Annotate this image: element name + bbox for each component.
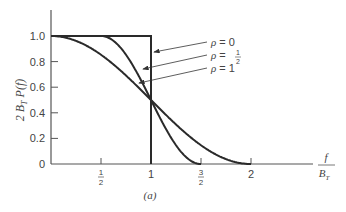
caption: (a) — [144, 189, 157, 202]
annotation-label: ρ = 0 — [210, 36, 235, 48]
y-tick-label: 0.6 — [30, 81, 45, 93]
annotation-arrow — [154, 42, 207, 52]
y-axis-label: 2 BT P(f) — [13, 79, 29, 121]
x-tick-label-num: 3 — [199, 168, 204, 177]
svg-text:f: f — [324, 151, 329, 163]
annotation-label: ρ = 1 — [210, 62, 235, 74]
y-tick-label: 0.4 — [30, 107, 45, 119]
x-tick-label: 2 — [248, 168, 254, 180]
svg-text:2 BT P(f): 2 BT P(f) — [13, 79, 29, 121]
y-tick-label: 0 — [39, 158, 45, 170]
svg-text:2: 2 — [236, 58, 240, 65]
x-tick-label: 1 — [148, 168, 154, 180]
annotation-arrow — [139, 68, 207, 83]
annotation-arrow — [143, 55, 207, 69]
svg-text:BT: BT — [319, 167, 331, 182]
x-axis-label: f BT — [318, 151, 335, 182]
annotations: ρ = 0ρ =12ρ = 1 — [139, 36, 241, 83]
axes — [51, 10, 313, 164]
svg-text:1: 1 — [236, 49, 240, 56]
x-tick-label-num: 1 — [99, 168, 104, 177]
x-tick-label-den: 2 — [99, 178, 104, 187]
x-tick-label-den: 2 — [199, 178, 204, 187]
y-ticks: 00.20.40.60.81.0 — [30, 30, 58, 170]
annotation-label: ρ = — [210, 49, 226, 61]
raised-cosine-chart: 00.20.40.60.81.0 121322 ρ = 0ρ =12ρ = 1 … — [0, 0, 346, 212]
y-tick-label: 0.2 — [30, 132, 45, 144]
y-tick-label: 1.0 — [30, 30, 45, 42]
curve-rho-0_5 — [51, 36, 201, 164]
y-tick-label: 0.8 — [30, 56, 45, 68]
x-ticks: 121322 — [98, 158, 254, 187]
